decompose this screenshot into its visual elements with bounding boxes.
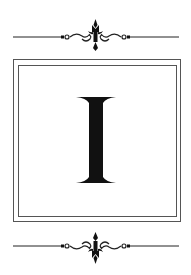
- bottom-flourish-ornament: [0, 228, 191, 268]
- top-flourish-ornament: [0, 15, 191, 55]
- drop-cap-letter: I: [74, 95, 118, 185]
